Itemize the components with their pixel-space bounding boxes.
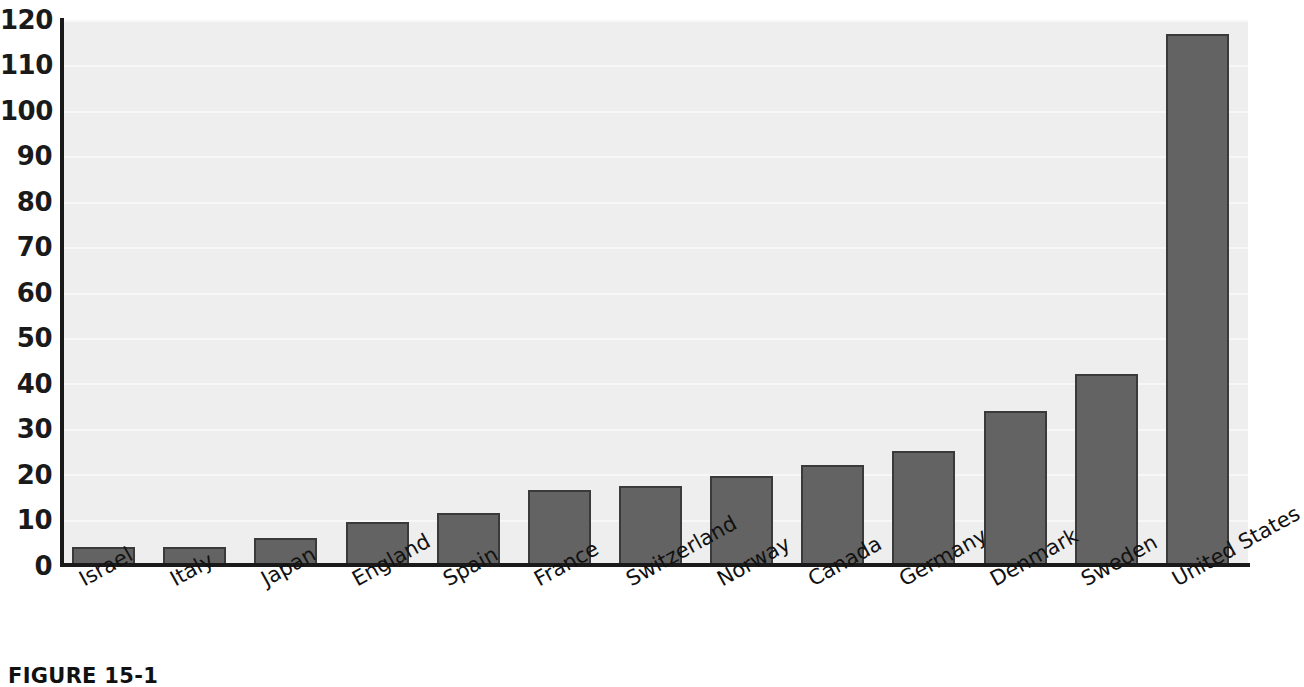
bar[interactable] xyxy=(1075,374,1138,565)
gridline xyxy=(63,247,1248,249)
y-axis-tick-label: 40 xyxy=(0,371,52,397)
y-axis-line xyxy=(60,18,64,567)
gridline xyxy=(63,338,1248,340)
bar[interactable] xyxy=(1166,34,1229,565)
y-axis-tick-label: 30 xyxy=(0,416,52,442)
y-axis-tick-label: 0 xyxy=(0,553,52,579)
plot-area xyxy=(63,20,1248,565)
y-axis-tick-label: 80 xyxy=(0,189,52,215)
gridline xyxy=(63,293,1248,295)
gridline xyxy=(63,383,1248,385)
y-axis-tick-label: 100 xyxy=(0,98,52,124)
y-axis-tick-label: 110 xyxy=(0,52,52,78)
gridline xyxy=(63,429,1248,431)
gridline xyxy=(63,65,1248,67)
y-axis-tick-label: 10 xyxy=(0,507,52,533)
figure-caption: FIGURE 15-1 xyxy=(8,664,158,687)
gridline xyxy=(63,474,1248,476)
gridline xyxy=(63,156,1248,158)
gridline xyxy=(63,111,1248,113)
gridline xyxy=(63,20,1248,22)
y-axis-tick-label: 90 xyxy=(0,143,52,169)
y-axis-tick-label: 70 xyxy=(0,234,52,260)
y-axis-tick-label: 120 xyxy=(0,7,52,33)
y-axis-tick-label: 60 xyxy=(0,280,52,306)
gridline xyxy=(63,202,1248,204)
y-axis-tick-label: 20 xyxy=(0,462,52,488)
y-axis-tick-label: 50 xyxy=(0,325,52,351)
